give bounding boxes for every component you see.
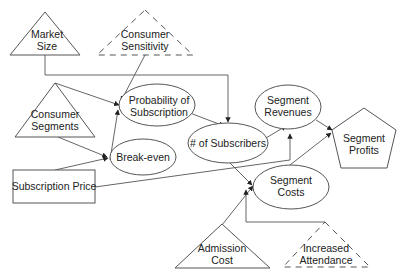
node-label: Market <box>31 28 63 40</box>
node-consumer-sensitivity[interactable]: Consumer Sensitivity <box>97 10 193 55</box>
influence-diagram: Market Size Consumer Sensitivity Consume… <box>0 0 404 280</box>
node-label: Admission <box>198 242 247 254</box>
node-probability-of-subscription[interactable]: Probability of Subscription <box>119 84 195 126</box>
node-label: Segment <box>270 174 312 186</box>
node-label: Size <box>37 40 58 52</box>
node-increased-attendance[interactable]: Increased Attendance <box>283 222 370 267</box>
node-label: Segment <box>343 132 385 144</box>
edge-subscribers-to-costs <box>230 163 252 185</box>
node-label: Subscription <box>130 106 188 118</box>
node-label: Consumer <box>31 108 80 120</box>
node-segment-costs[interactable]: Segment Costs <box>253 165 329 209</box>
node-market-size[interactable]: Market Size <box>10 12 80 55</box>
edge-revenues-to-profits <box>316 120 332 130</box>
node-num-subscribers[interactable]: # of Subscribers <box>188 123 268 163</box>
node-label: Probability of <box>129 94 190 106</box>
node-admission-cost[interactable]: Admission Cost <box>175 224 270 268</box>
node-segment-revenues[interactable]: Segment Revenues <box>255 85 321 129</box>
edge-costs-to-profits <box>290 133 331 165</box>
edge-admission-cost-to-costs <box>218 186 253 230</box>
node-subscription-price[interactable]: Subscription Price <box>12 170 97 203</box>
node-label: Subscription Price <box>12 180 97 192</box>
node-label: Cost <box>211 254 233 266</box>
node-label: Break-even <box>116 151 170 163</box>
node-consumer-segments[interactable]: Consumer Segments <box>15 83 95 137</box>
node-segment-profits[interactable]: Segment Profits <box>332 108 396 168</box>
edge-consumer-segments-to-break-even <box>58 137 107 157</box>
node-label: # of Subscribers <box>190 137 266 149</box>
edge-subscription-price-to-break-even <box>55 158 108 170</box>
node-label: Segment <box>267 94 309 106</box>
node-break-even[interactable]: Break-even <box>110 139 176 175</box>
node-label: Sensitivity <box>121 40 169 52</box>
node-label: Attendance <box>299 254 352 266</box>
node-label: Increased <box>303 242 349 254</box>
node-label: Profits <box>349 144 379 156</box>
node-label: Revenues <box>264 106 311 118</box>
node-label: Consumer <box>121 28 170 40</box>
node-label: Costs <box>278 186 305 198</box>
node-label: Segments <box>31 120 78 132</box>
